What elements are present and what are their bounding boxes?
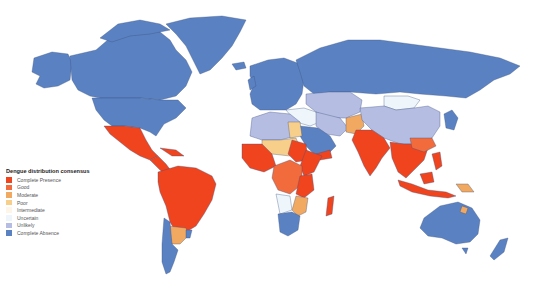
region-egypt xyxy=(288,122,302,138)
legend-label: Complete Presence xyxy=(17,177,61,183)
legend-item-moderate: Moderate xyxy=(6,191,116,199)
region-new-zealand xyxy=(490,238,508,260)
swatch-complete-absence xyxy=(6,230,12,236)
region-korea-japan xyxy=(444,110,458,130)
legend-label: Moderate xyxy=(17,192,38,198)
legend-item-complete-absence: Complete Absence xyxy=(6,229,116,237)
swatch-complete-presence xyxy=(6,177,12,183)
map-legend: Dengue distribution consensus Complete P… xyxy=(6,168,116,237)
region-europe xyxy=(250,58,304,110)
swatch-good xyxy=(6,185,12,191)
region-southern-africa xyxy=(278,212,300,236)
region-mozambique xyxy=(292,196,308,216)
region-philippines xyxy=(432,152,442,170)
legend-title: Dengue distribution consensus xyxy=(6,168,116,174)
region-australia xyxy=(420,202,480,244)
legend-label: Intermediate xyxy=(17,207,45,213)
region-canada xyxy=(70,28,192,100)
legend-label: Poor xyxy=(17,200,28,206)
legend-label: Unlikely xyxy=(17,222,35,228)
world-map xyxy=(0,0,547,286)
legend-label: Complete Absence xyxy=(17,230,59,236)
region-iceland xyxy=(232,62,246,70)
legend-item-intermediate: Intermediate xyxy=(6,206,116,214)
legend-item-poor: Poor xyxy=(6,199,116,207)
region-uruguay xyxy=(186,230,192,238)
swatch-moderate xyxy=(6,192,12,198)
region-alaska xyxy=(32,52,72,88)
region-png xyxy=(456,184,474,192)
region-caribbean xyxy=(160,148,184,156)
region-angola xyxy=(276,194,292,214)
region-borneo xyxy=(420,172,434,184)
swatch-uncertain xyxy=(6,215,12,221)
legend-item-unlikely: Unlikely xyxy=(6,222,116,230)
swatch-poor xyxy=(6,200,12,206)
legend-label: Good xyxy=(17,184,29,190)
legend-label: Uncertain xyxy=(17,215,38,221)
legend-item-complete-presence: Complete Presence xyxy=(6,176,116,184)
legend-item-good: Good xyxy=(6,184,116,192)
swatch-intermediate xyxy=(6,207,12,213)
region-russia xyxy=(296,40,520,98)
legend-item-uncertain: Uncertain xyxy=(6,214,116,222)
swatch-unlikely xyxy=(6,223,12,229)
region-tasmania xyxy=(462,248,468,254)
region-madagascar xyxy=(326,196,334,216)
